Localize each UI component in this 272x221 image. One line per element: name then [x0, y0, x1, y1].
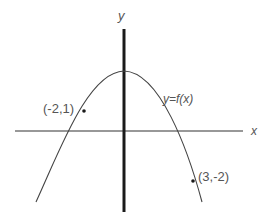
graph-canvas: y x y=f(x) (-2,1) (3,-2): [0, 0, 272, 221]
x-axis-label: x: [250, 124, 258, 138]
point-marker-neg2-1: [82, 109, 86, 113]
point-marker-3-neg2: [191, 179, 195, 183]
graph-figure: y x y=f(x) (-2,1) (3,-2): [0, 0, 272, 221]
point-label-neg2-1: (-2,1): [43, 101, 74, 116]
curve-label: y=f(x): [162, 92, 193, 106]
y-axis-label: y: [117, 8, 126, 23]
parabola-curve: [36, 71, 202, 202]
point-label-3-neg2: (3,-2): [198, 169, 229, 184]
